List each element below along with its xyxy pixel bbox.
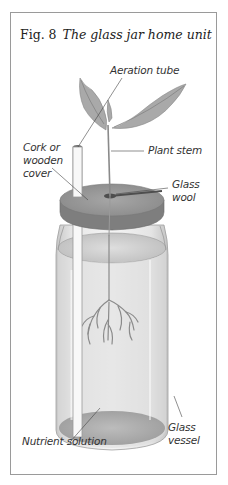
label-glass-vessel: Glass vessel [168,421,200,447]
label-nutrient-solution: Nutrient solution [22,435,107,448]
plant-leaves [80,78,187,130]
label-aeration-tube: Aeration tube [110,64,179,77]
label-cork-cover: Cork or wooden cover [23,141,63,180]
label-glass-wool: Glass wool [172,178,199,204]
label-plant-stem: Plant stem [148,144,202,157]
